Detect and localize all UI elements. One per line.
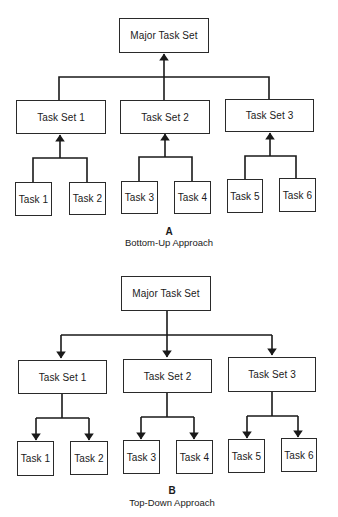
a-task-4: Task 4 [174,181,211,214]
b-task-4: Task 4 [176,440,213,474]
b-task-6: Task 6 [281,438,317,472]
b-root-box: Major Task Set [121,276,211,311]
b-caption-title: Top-Down Approach [3,497,338,508]
a-caption-title: Bottom-Up Approach [0,237,338,248]
b-task-set-3: Task Set 3 [228,357,316,392]
b-root-bus [61,310,272,335]
b-set1-bus [36,393,89,418]
b-set3-bus [247,391,298,416]
a-set3-bus [245,156,296,179]
b-task-set-1: Task Set 1 [18,360,107,394]
b-set2-bus [141,392,194,417]
a-set2-bus [139,157,192,181]
a-task-6: Task 6 [279,178,316,212]
a-task-1: Task 1 [15,182,52,216]
a-caption-letter: A [0,226,338,237]
a-task-set-1: Task Set 1 [16,100,106,134]
a-task-set-3: Task Set 3 [225,99,314,132]
b-task-3: Task 3 [123,440,160,474]
a-root-box: Major Task Set [119,18,209,53]
a-task-3: Task 3 [121,181,158,214]
b-caption-letter: B [3,485,338,496]
b-task-2: Task 2 [70,441,108,475]
a-task-2: Task 2 [69,182,106,215]
b-task-1: Task 1 [17,441,54,476]
a-task-5: Task 5 [227,179,263,213]
b-task-set-2: Task Set 2 [123,359,212,393]
a-task-set-2: Task Set 2 [120,100,210,134]
a-set1-bus [33,158,87,182]
b-task-5: Task 5 [228,439,265,473]
